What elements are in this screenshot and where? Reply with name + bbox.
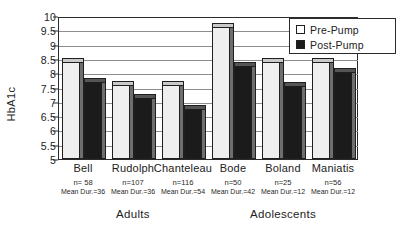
super-group-label: Adults xyxy=(73,208,193,220)
mean-duration-label: Mean Dur.=36 xyxy=(105,188,161,195)
y-tick-label: 7.5 xyxy=(16,83,56,95)
bar-front-face xyxy=(284,86,302,159)
bar-group xyxy=(212,17,256,159)
mean-duration-label: Mean Dur.=54 xyxy=(155,188,211,195)
y-tick-label: 9 xyxy=(16,40,56,52)
chart-legend: Pre-Pump Post-Pump xyxy=(289,18,396,54)
bar-group xyxy=(162,17,206,159)
bar-front-face xyxy=(62,62,80,159)
bar-front-face xyxy=(162,85,180,159)
y-tick-label: 7 xyxy=(16,97,56,109)
mean-duration-label: Mean Dur.=12 xyxy=(305,188,361,195)
x-axis-category-labels: BellRudolphChanteleauBodeBolandManiatis xyxy=(58,162,358,177)
mean-duration-label: Mean Dur.=12 xyxy=(255,188,311,195)
bar-pre-pump xyxy=(262,58,284,159)
sample-size-label: n=25 xyxy=(257,178,309,187)
sample-size-label: n=107 xyxy=(107,178,159,187)
sample-size-label: n=50 xyxy=(207,178,259,187)
bar-front-face xyxy=(234,66,252,159)
bar-front-face xyxy=(112,85,130,159)
legend-item-pre-pump: Pre-Pump xyxy=(296,22,395,37)
y-tick-label: 8 xyxy=(16,68,56,80)
sample-size-label: n=56 xyxy=(307,178,359,187)
legend-item-post-pump: Post-Pump xyxy=(296,37,395,52)
y-tick-label: 5.5 xyxy=(16,140,56,152)
bar-pre-pump xyxy=(62,58,84,159)
legend-label-post-pump: Post-Pump xyxy=(310,39,364,51)
legend-label-pre-pump: Pre-Pump xyxy=(310,24,359,36)
bar-post-pump xyxy=(84,78,106,159)
bar-pre-pump xyxy=(212,23,234,159)
bar-front-face xyxy=(134,98,152,159)
bar-pre-pump xyxy=(162,81,184,159)
bar-side-face xyxy=(152,98,156,159)
legend-swatch-post-pump xyxy=(296,40,305,49)
y-tick-label: 6 xyxy=(16,125,56,137)
bar-post-pump xyxy=(134,94,156,159)
bar-group xyxy=(62,17,106,159)
mean-duration-label: Mean Dur.=36 xyxy=(55,188,111,195)
bar-side-face xyxy=(102,82,106,159)
y-tick-label: 6.5 xyxy=(16,111,56,123)
bar-side-face xyxy=(252,66,256,159)
sample-size-label: n= 58 xyxy=(57,178,109,187)
bar-post-pump xyxy=(334,68,356,159)
bar-front-face xyxy=(262,62,280,159)
bar-post-pump xyxy=(184,105,206,159)
bar-pre-pump xyxy=(112,81,134,159)
bar-front-face xyxy=(184,109,202,159)
hba1c-bar-chart: HbA1c 109.598.587.576.565.55 Pre-Pump Po… xyxy=(0,0,420,237)
y-tick-label: 8.5 xyxy=(16,54,56,66)
bar-front-face xyxy=(312,62,330,159)
x-axis-category-label: Maniatis xyxy=(298,162,368,174)
legend-swatch-pre-pump xyxy=(296,25,305,34)
bar-front-face xyxy=(334,72,352,159)
bar-side-face xyxy=(352,72,356,159)
mean-duration-label: Mean Dur.=42 xyxy=(205,188,261,195)
y-tick-label: 9.5 xyxy=(16,25,56,37)
bar-side-face xyxy=(302,86,306,159)
y-tick-label: 10 xyxy=(16,11,56,23)
super-group-label: Adolescents xyxy=(223,208,343,220)
bar-post-pump xyxy=(284,82,306,159)
bar-front-face xyxy=(84,82,102,159)
sample-size-label: n=116 xyxy=(157,178,209,187)
bar-pre-pump xyxy=(312,58,334,159)
bar-front-face xyxy=(212,27,230,159)
bar-post-pump xyxy=(234,62,256,159)
bar-side-face xyxy=(202,109,206,159)
bar-group xyxy=(112,17,156,159)
mean-duration-labels: Mean Dur.=36Mean Dur.=36Mean Dur.=54Mean… xyxy=(58,188,358,199)
